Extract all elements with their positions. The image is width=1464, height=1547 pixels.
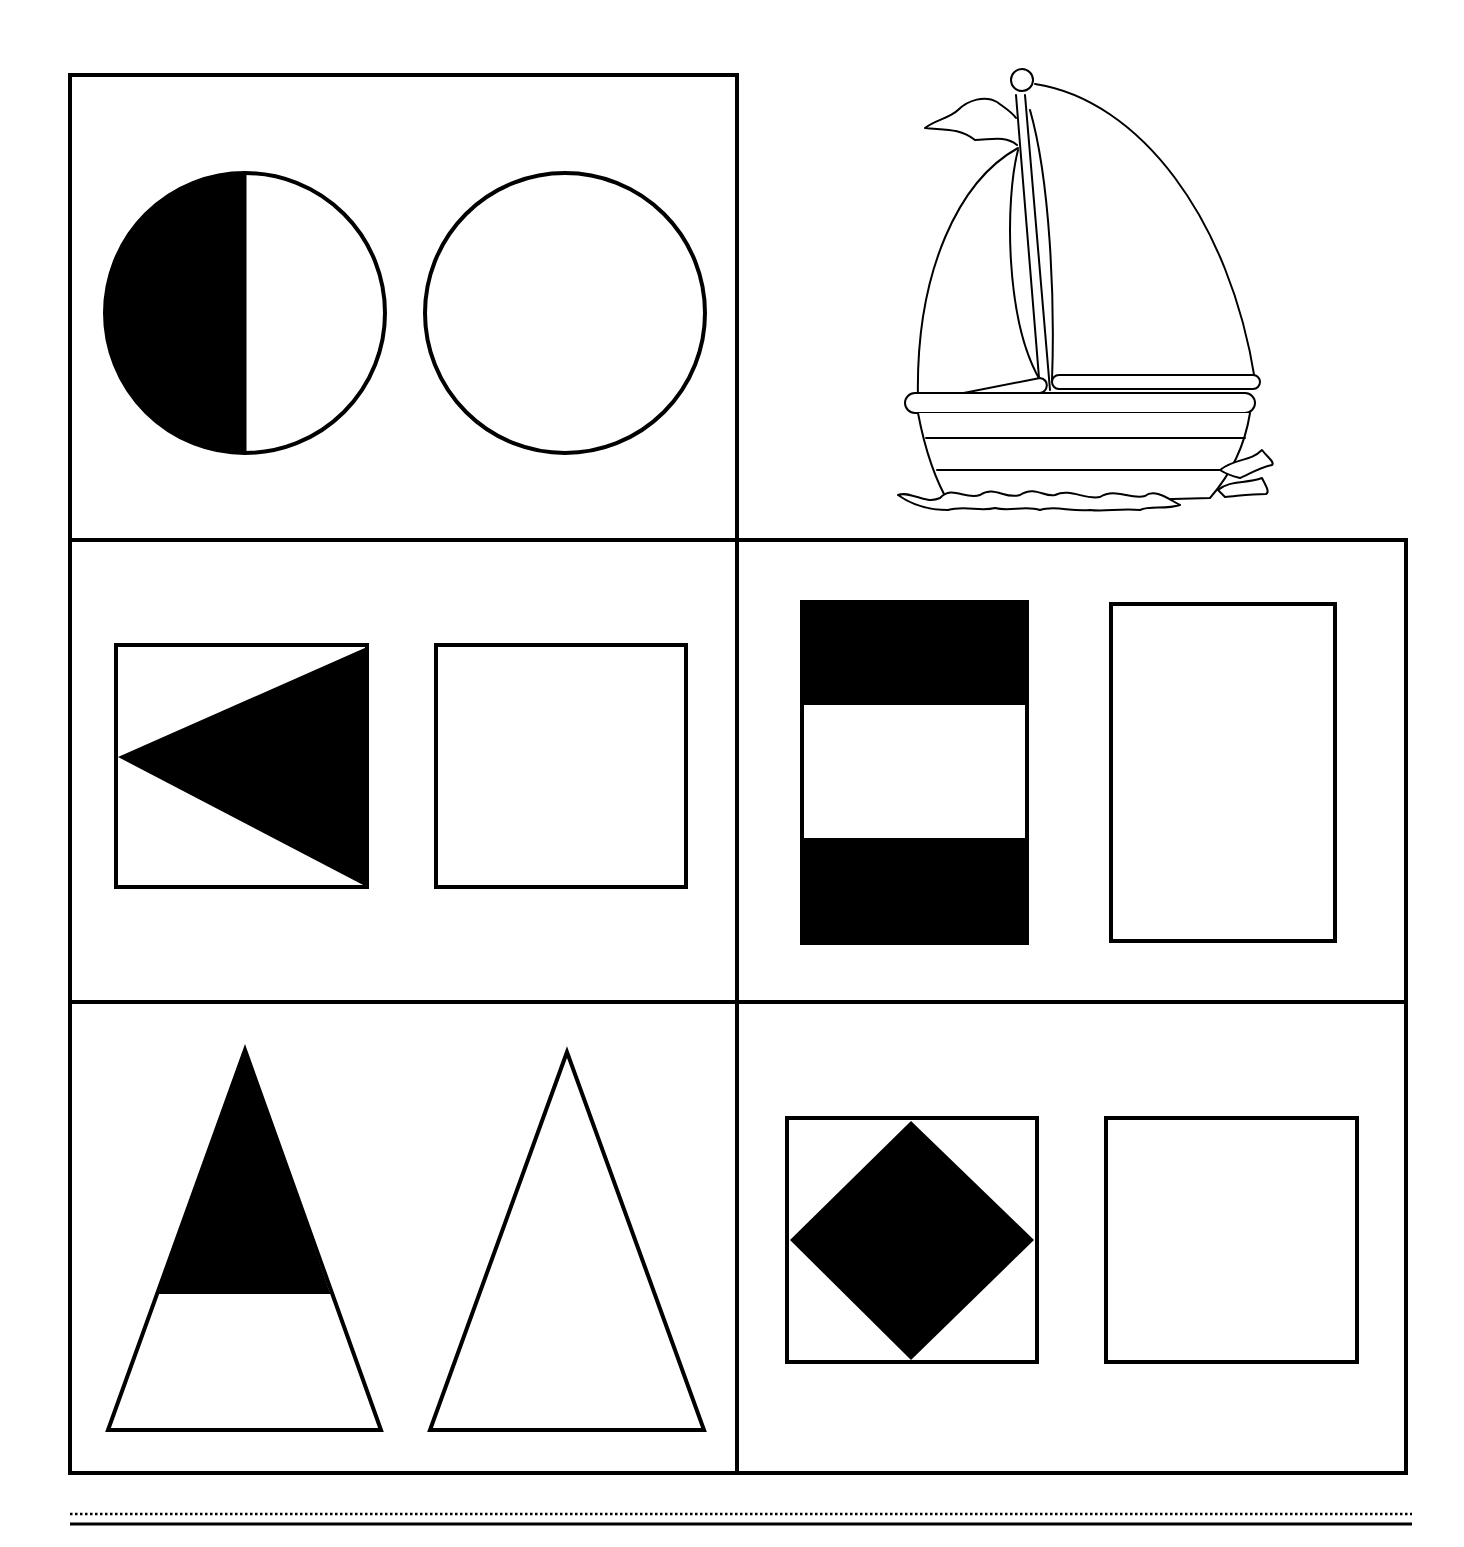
cell-rectangles-bands — [802, 602, 1335, 943]
footer-rules — [70, 1514, 1412, 1524]
cell-triangles — [108, 1050, 704, 1430]
main-sail — [1035, 84, 1255, 380]
answer-empty-square-2[interactable] — [1106, 1118, 1357, 1362]
sailboat-illustration — [898, 69, 1273, 511]
example-square-triangle — [116, 645, 367, 887]
example-square-diamond — [787, 1118, 1037, 1362]
cell-squares-diamond — [787, 1118, 1357, 1362]
deck-rail — [905, 393, 1255, 413]
answer-empty-circle[interactable] — [425, 173, 705, 453]
answer-empty-triangle[interactable] — [430, 1052, 704, 1430]
example-half-circle — [105, 173, 385, 453]
mast-knob — [1011, 69, 1033, 91]
cell-circles — [105, 173, 705, 453]
worksheet-page: shape-symmetry-copy-activity — [0, 0, 1464, 1547]
example-partially-filled-triangle — [108, 1050, 381, 1430]
flag — [925, 99, 1017, 145]
answer-empty-square[interactable] — [436, 645, 686, 887]
cell-squares-triangle — [116, 645, 686, 887]
worksheet-canvas — [0, 0, 1464, 1547]
example-banded-rectangle — [802, 602, 1027, 943]
hull — [918, 413, 1250, 505]
answer-empty-rectangle[interactable] — [1111, 604, 1335, 941]
